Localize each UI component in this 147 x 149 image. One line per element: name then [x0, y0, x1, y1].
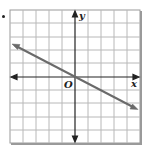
coordinate-plane: y x O: [0, 0, 147, 149]
x-axis-label: x: [130, 78, 138, 89]
origin-label: O: [64, 79, 73, 90]
y-axis-label: y: [78, 10, 86, 21]
